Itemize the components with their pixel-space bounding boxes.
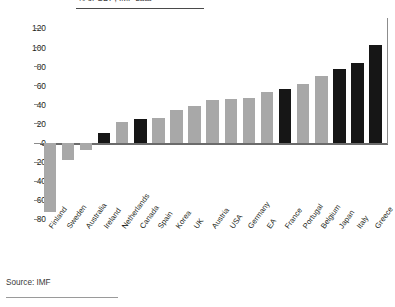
x-axis-label-japan: Japan [338, 209, 357, 230]
bar-japan[interactable] [333, 69, 346, 143]
bar-korea[interactable] [170, 110, 183, 143]
bar-portugal[interactable] [297, 84, 310, 143]
bar-austria[interactable] [206, 100, 219, 143]
bar-france[interactable] [279, 89, 292, 143]
bar-ireland[interactable] [98, 133, 111, 143]
bar-belgium[interactable] [315, 76, 328, 143]
x-axis-label-uk: UK [193, 217, 206, 230]
x-axis-label-greece: Greece [374, 205, 395, 230]
bottom-divider [6, 297, 118, 298]
x-axis-label-austria: Austria [211, 207, 231, 231]
bar-uk[interactable] [188, 106, 201, 143]
bar-spain[interactable] [152, 118, 165, 143]
bar-canada[interactable] [134, 119, 147, 143]
bar-sweden[interactable] [62, 143, 75, 160]
x-axis-label-france: France [283, 207, 303, 231]
bar-finland[interactable] [44, 143, 57, 212]
bar-usa[interactable] [225, 99, 238, 143]
x-axis-label-ea: EA [265, 217, 277, 230]
x-axis-label-korea: Korea [175, 209, 193, 230]
x-axis-label-usa: USA [229, 213, 245, 230]
bar-greece[interactable] [369, 45, 382, 143]
bar-australia[interactable] [80, 143, 93, 150]
x-axis-label-spain: Spain [157, 210, 175, 230]
bar-netherlands[interactable] [116, 122, 129, 143]
source-note: Source: IMF [6, 278, 51, 287]
x-axis-label-italy: Italy [356, 214, 371, 230]
bar-germany[interactable] [243, 98, 256, 143]
bar-ea[interactable] [261, 92, 274, 143]
bar-italy[interactable] [351, 63, 364, 143]
